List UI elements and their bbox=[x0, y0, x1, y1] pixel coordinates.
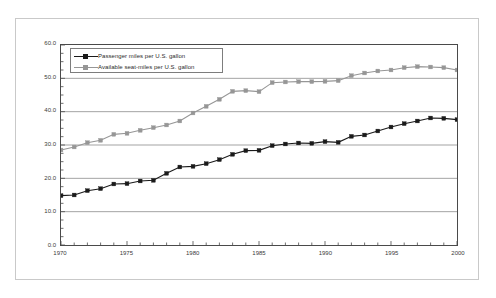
chart-figure: Miles per U.S. gallon 0.010.020.030.040.… bbox=[0, 0, 496, 298]
legend-marker-passenger-miles bbox=[74, 52, 98, 61]
plot-area bbox=[60, 44, 458, 246]
x-tick-label: 1990 bbox=[305, 250, 345, 256]
plot-canvas bbox=[61, 45, 457, 245]
x-tick-label: 1995 bbox=[372, 250, 412, 256]
x-tick-label: 2000 bbox=[438, 250, 478, 256]
x-tick-label: 1970 bbox=[40, 250, 80, 256]
legend-item: Available seat-miles per U.S. gallon bbox=[74, 62, 219, 72]
legend-label-available-seat-miles: Available seat-miles per U.S. gallon bbox=[98, 64, 194, 70]
legend-label-passenger-miles: Passenger miles per U.S. gallon bbox=[98, 53, 185, 59]
x-tick-label: 1985 bbox=[239, 250, 279, 256]
x-tick-label: 1980 bbox=[173, 250, 213, 256]
legend-marker-available-seat-miles bbox=[74, 63, 98, 72]
legend-item: Passenger miles per U.S. gallon bbox=[74, 51, 219, 61]
x-tick-label: 1975 bbox=[106, 250, 146, 256]
chart-legend: Passenger miles per U.S. gallon Availabl… bbox=[70, 48, 223, 73]
